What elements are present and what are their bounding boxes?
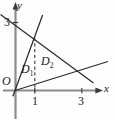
x-axis-label: x [104, 83, 109, 94]
x-tick-label-1: 1 [32, 95, 38, 107]
region-d1-subscript: 1 [30, 69, 34, 78]
region-d2-label: D2 [41, 55, 53, 70]
y-tick-label-3: 3 [4, 16, 10, 28]
figure-canvas [0, 0, 115, 120]
region-d1-label: D1 [21, 63, 33, 78]
y-axis-label: y [17, 0, 22, 11]
region-d2-subscript: 2 [50, 61, 54, 70]
region-d2-letter: D [41, 54, 50, 68]
origin-label: O [2, 75, 11, 87]
x-tick-label-3: 3 [78, 95, 84, 107]
x-axis-arrowhead [95, 88, 103, 94]
region-d1-letter: D [21, 62, 30, 76]
coordinate-plane-figure: y x O 3 1 3 D1 D2 [0, 0, 115, 120]
